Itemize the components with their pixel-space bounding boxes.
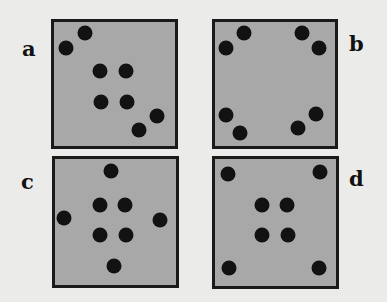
panel-c	[52, 156, 179, 288]
panel-label-b: b	[349, 33, 364, 54]
dot	[119, 64, 134, 79]
dot	[118, 198, 133, 213]
dot	[57, 211, 72, 226]
dot	[219, 108, 234, 123]
dot	[295, 26, 310, 41]
dot	[312, 41, 327, 56]
dot	[120, 95, 135, 110]
panel-label-c: c	[21, 171, 34, 192]
dot	[150, 109, 165, 124]
dot	[233, 126, 248, 141]
dot	[93, 64, 108, 79]
dot	[309, 107, 324, 122]
dot	[78, 26, 93, 41]
dot	[313, 165, 328, 180]
panel-label-d: d	[349, 168, 364, 189]
dot	[219, 41, 234, 56]
dot	[255, 228, 270, 243]
dot	[221, 167, 236, 182]
dot	[255, 198, 270, 213]
dot	[312, 261, 327, 276]
panel-label-a: a	[22, 38, 36, 59]
panel-a	[51, 19, 178, 149]
dot	[93, 228, 108, 243]
dot	[281, 228, 296, 243]
dot	[222, 261, 237, 276]
panel-b	[212, 19, 338, 149]
dot	[291, 121, 306, 136]
dot	[94, 95, 109, 110]
dot	[237, 26, 252, 41]
dot	[104, 164, 119, 179]
dot	[93, 198, 108, 213]
dot	[59, 41, 74, 56]
panel-d	[212, 156, 339, 289]
dot	[153, 213, 168, 228]
dot	[280, 198, 295, 213]
dot	[132, 123, 147, 138]
dot	[119, 228, 134, 243]
dot	[107, 259, 122, 274]
